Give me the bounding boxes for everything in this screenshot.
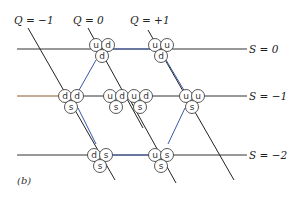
quark-state-udd: u d d xyxy=(90,39,115,63)
hex-edge-lower-left xyxy=(78,108,96,144)
quark-state-uud: u u d xyxy=(149,39,174,63)
quark-state-uds-1: u d s xyxy=(104,90,129,114)
svg-text:d: d xyxy=(158,51,164,61)
svg-text:u: u xyxy=(93,40,99,50)
quark-state-uds-2: u d s xyxy=(128,90,153,114)
svg-text:d: d xyxy=(62,91,68,101)
quark-state-uus: u u s xyxy=(180,90,205,114)
svg-text:s: s xyxy=(159,161,164,171)
svg-text:d: d xyxy=(105,40,111,50)
quark-state-uss: u s s xyxy=(149,149,174,173)
svg-text:s: s xyxy=(190,102,195,112)
svg-text:d: d xyxy=(74,91,80,101)
s0-label: S = 0 xyxy=(249,43,279,55)
s-minus1-label: S = −1 xyxy=(249,90,287,102)
svg-text:u: u xyxy=(152,150,158,160)
svg-text:d: d xyxy=(119,91,125,101)
svg-text:s: s xyxy=(98,161,103,171)
s-minus2-label: S = −2 xyxy=(249,149,287,161)
svg-text:d: d xyxy=(91,150,97,160)
svg-text:u: u xyxy=(164,40,170,50)
svg-text:s: s xyxy=(165,150,170,160)
svg-text:u: u xyxy=(107,91,113,101)
baryon-octet-quark-diagram: Q = −1 Q = 0 Q = +1 S = 0 S = −1 S = −2 … xyxy=(0,0,295,198)
q-minus1-label: Q = −1 xyxy=(14,14,54,27)
hex-edge-lower-right xyxy=(168,108,185,144)
figure-caption: (b) xyxy=(17,175,31,186)
svg-text:u: u xyxy=(152,40,158,50)
hex-edge-upper-right xyxy=(166,60,185,92)
svg-text:d: d xyxy=(99,51,105,61)
svg-text:u: u xyxy=(195,91,201,101)
hex-edge-upper-left xyxy=(78,60,96,92)
svg-text:s: s xyxy=(69,102,74,112)
q0-label: Q = 0 xyxy=(73,14,104,27)
quark-state-dds: d d s xyxy=(59,90,84,114)
svg-text:s: s xyxy=(114,102,119,112)
svg-text:u: u xyxy=(131,91,137,101)
q-plus1-label: Q = +1 xyxy=(130,14,170,27)
svg-text:d: d xyxy=(143,91,149,101)
svg-text:s: s xyxy=(104,150,109,160)
svg-text:s: s xyxy=(138,102,143,112)
svg-text:u: u xyxy=(183,91,189,101)
